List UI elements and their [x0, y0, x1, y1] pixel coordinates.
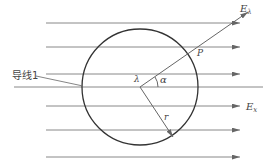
point-p-label: P [196, 48, 204, 58]
uniform-field-label: Ex [245, 101, 257, 114]
conductor-leader-line [36, 76, 83, 86]
charge-lambda-label: λ [133, 74, 140, 84]
angle-alpha-label: α [160, 74, 167, 85]
radius-r-label: r [164, 112, 169, 122]
uniform-field-lines [46, 23, 240, 157]
angle-arc [155, 77, 158, 87]
conductor-label: 导线1 [12, 69, 38, 81]
diagram-canvas: 导线1 Eλ Ex P α λ r [0, 0, 276, 167]
